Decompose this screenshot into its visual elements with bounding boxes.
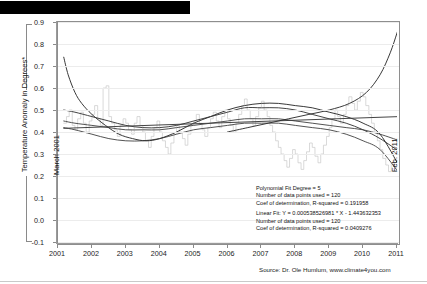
y-axis-tick-label: -0.1 <box>32 238 44 247</box>
y-axis-tick-label: 0.7 <box>34 62 44 71</box>
x-axis-tick-label: 2002 <box>83 249 99 258</box>
gridline <box>58 22 399 23</box>
y-axis-tick-labels: 0.90.80.70.60.50.40.30.20.10.0-0.1 <box>0 21 56 244</box>
x-axis-tick <box>125 244 126 248</box>
x-axis-tick <box>260 244 261 248</box>
gridline <box>58 88 399 89</box>
x-axis-tick-label: 2003 <box>117 249 133 258</box>
x-axis-tick-label: 2004 <box>151 249 167 258</box>
x-axis-tick <box>91 244 92 248</box>
x-axis-tick <box>362 244 363 248</box>
series-path <box>64 57 397 167</box>
y-axis-tick-label: 0.5 <box>34 106 44 115</box>
x-axis-tick-label: 2001 <box>49 249 65 258</box>
gridline <box>58 154 399 155</box>
y-axis-tick-label: 0.2 <box>34 172 44 181</box>
polynomial-points-line: Number of data points used = 120 <box>256 192 381 199</box>
polynomial-fit-group: Polynomial Fit Degree = 5 Number of data… <box>256 185 381 207</box>
linear-equation-line: Linear Fit: Y = 0.000538526981 * X - 1.4… <box>256 210 381 217</box>
y-axis-tick-label: 0.4 <box>34 128 44 137</box>
linear-points-line: Number of data points used = 120 <box>256 218 381 225</box>
linear-r2-line: Coef of determination, R-squared = 0.040… <box>256 225 381 232</box>
x-axis-tick-label: 2006 <box>219 249 235 258</box>
y-axis-tick-label: 0.8 <box>34 40 44 49</box>
polynomial-degree-line: Polynomial Fit Degree = 5 <box>256 185 381 192</box>
start-date-label: March 2001 <box>52 135 61 175</box>
x-axis-tick <box>159 244 160 248</box>
x-axis-tick <box>328 244 329 248</box>
x-axis-tick-label: 2010 <box>354 249 370 258</box>
x-axis-tick-label: 2009 <box>320 249 336 258</box>
x-axis-tick <box>396 244 397 248</box>
gridline <box>58 110 399 111</box>
x-axis-tick <box>57 244 58 248</box>
x-axis-tick-label: 2011 <box>388 249 403 258</box>
redacted-title-bar <box>0 1 190 14</box>
end-date-label: Feb. 2011 <box>390 138 399 172</box>
linear-fit-group: Linear Fit: Y = 0.000538526981 * X - 1.4… <box>256 210 381 232</box>
x-axis-tick <box>227 244 228 248</box>
gridline <box>58 66 399 67</box>
x-axis-tick-label: 2008 <box>286 249 302 258</box>
source-attribution: Source: Dr. Ole Humlum, www.climate4you.… <box>259 266 391 273</box>
x-axis-tick-labels: 2001200220032004200520062007200820092010… <box>57 249 398 261</box>
y-axis-tick-label: 0.3 <box>34 150 44 159</box>
x-axis-tick <box>193 244 194 248</box>
x-axis-tick <box>294 244 295 248</box>
y-axis-tick-label: 0.9 <box>34 18 44 27</box>
series-path <box>64 107 397 151</box>
chart-screenshot: Temperature Anomaly in Degrees* 0.90.80.… <box>0 0 427 284</box>
y-axis-tick-label: 0.0 <box>34 216 44 225</box>
y-axis-tick-label: 0.6 <box>34 84 44 93</box>
gridline <box>58 44 399 45</box>
x-axis-tick-label: 2007 <box>252 249 268 258</box>
x-axis-tick-label: 2005 <box>185 249 201 258</box>
fit-statistics-annotation: Polynomial Fit Degree = 5 Number of data… <box>256 185 381 233</box>
gridline <box>58 176 399 177</box>
gridline <box>58 132 399 133</box>
y-axis-tick-label: 0.1 <box>34 194 44 203</box>
bottom-divider <box>0 281 427 282</box>
polynomial-r2-line: Coef of determination, R-squared = 0.191… <box>256 200 381 207</box>
